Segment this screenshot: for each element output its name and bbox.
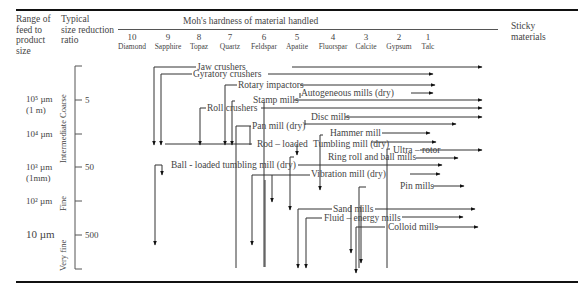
size-1e5-note: (1 m) bbox=[26, 105, 46, 115]
label-colloid-mills: Colloid mills bbox=[388, 222, 438, 232]
equipment-diagram: 5 50 500 10⁵ µm (1 m) 10⁴ µm 10³ µm (1mm… bbox=[0, 0, 585, 287]
label-disc-mills: Disc mills bbox=[311, 112, 350, 122]
ratio-500: 500 bbox=[85, 230, 99, 240]
category-intermediate-coarse: Intermediate Coarse bbox=[58, 94, 68, 163]
category-fine: Fine bbox=[58, 196, 68, 211]
size-axis bbox=[75, 66, 82, 269]
label-rotary-impactors: Rotary impactors bbox=[238, 80, 304, 90]
label-roll-crushers: Roll crushers bbox=[207, 103, 258, 113]
label-hammer-mill: Hammer mill bbox=[330, 128, 381, 138]
label-gyratory-crushers: Gyratory crushers bbox=[193, 69, 262, 79]
label-ring-roll-ball-mills: Ring roll and ball mills bbox=[328, 152, 416, 162]
size-1e2: 10² µm bbox=[26, 196, 52, 206]
ratio-5: 5 bbox=[85, 95, 90, 105]
label-pin-mills: Pin mills bbox=[400, 181, 434, 191]
label-ball-loaded-tumbling-mill: Ball - loaded tumbling mill (dry) bbox=[171, 160, 296, 171]
label-pan-mill: Pan mill (dry) bbox=[252, 121, 305, 132]
label-vibration-mill: Vibration mill (dry) bbox=[311, 169, 386, 180]
category-very-fine: Very fine bbox=[58, 239, 68, 271]
size-10: 10 µm bbox=[26, 228, 55, 240]
label-autogeneous-mills: Autogeneous mills (dry) bbox=[301, 88, 394, 99]
label-rod-loaded: Rod – loaded bbox=[257, 139, 308, 149]
size-1e3-note: (1mm) bbox=[26, 173, 51, 183]
size-1e4: 10⁴ µm bbox=[26, 129, 53, 139]
label-stamp-mills: Stamp mills bbox=[253, 95, 299, 105]
label-tumbling-mill: Tumbling mill (dry) bbox=[313, 139, 389, 150]
ratio-50: 50 bbox=[85, 162, 95, 172]
equipment-labels: Jaw crushers Gyratory crushers Rotary im… bbox=[171, 62, 441, 232]
bottom-rule bbox=[16, 281, 578, 283]
size-1e5: 10⁵ µm bbox=[26, 94, 53, 104]
size-1e3: 10³ µm bbox=[26, 162, 52, 172]
